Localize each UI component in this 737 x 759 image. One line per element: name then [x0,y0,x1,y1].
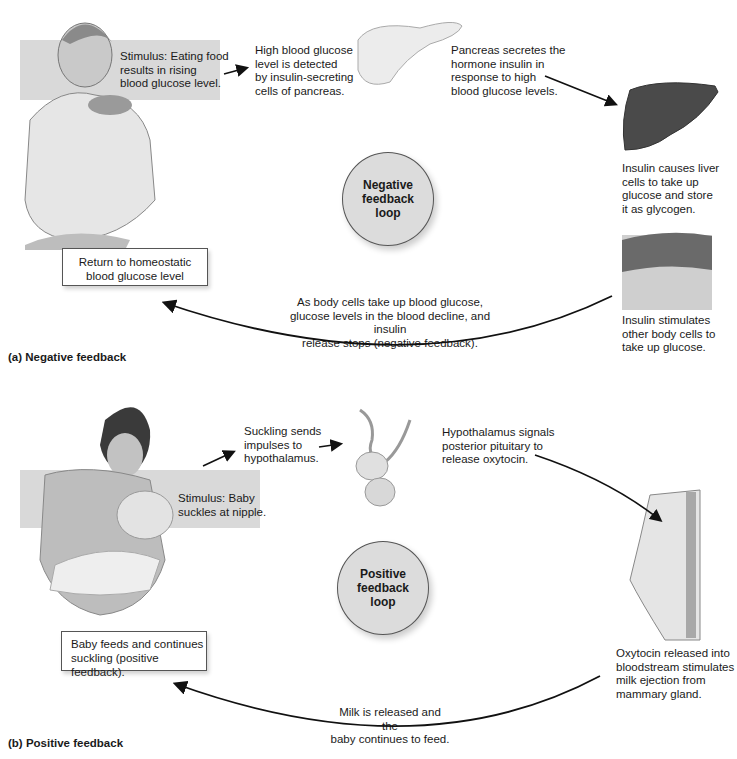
stimulus-text-a: Stimulus: Eating foodresults in risingbl… [120,50,229,91]
result-box-a: Return to homeostaticblood glucose level [62,248,208,286]
return-arrow-text-a: As body cells take up blood glucose,gluc… [280,296,500,350]
hypothalamus-text: Hypothalamus signalsposterior pituitary … [442,426,555,467]
arrow-stimulus-to-impulse [203,452,233,466]
liver-text: Insulin causes livercells to take upgluc… [622,162,719,216]
return-arrow-text-b: Milk is released and thebaby continues t… [330,706,450,747]
positive-feedback-loop: Positivefeedbackloop [337,541,429,635]
panel-label-b: (b) Positive feedback [8,737,123,749]
detect-text: High blood glucoselevel is detectedby in… [255,44,353,98]
cells-text: Insulin stimulatesother body cells totak… [622,314,715,355]
stimulus-text-b: Stimulus: Babysuckles at nipple. [178,492,266,519]
panel-label-a: (a) Negative feedback [8,351,126,363]
arrow-impulse-to-pituitary [319,444,340,447]
pancreas-text: Pancreas secretes thehormone insulin inr… [451,44,565,98]
negative-feedback-loop: Negativefeedbackloop [342,152,434,246]
impulse-text: Suckling sendsimpulses tohypothalamus. [244,425,321,466]
result-box-b: Baby feeds and continuessuckling (positi… [61,631,207,671]
oxytocin-text: Oxytocin released intobloodstream stimul… [616,647,734,701]
